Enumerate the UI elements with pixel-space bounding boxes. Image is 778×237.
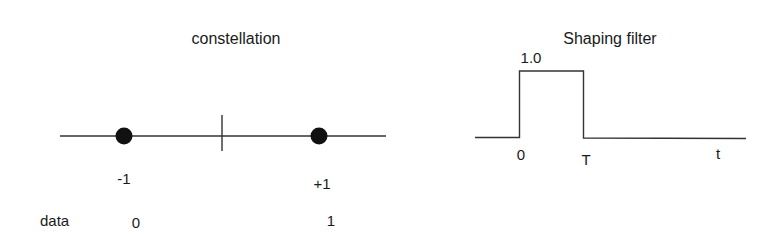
- constellation-point-positive: [311, 128, 328, 145]
- shaping-filter-title: Shaping filter: [563, 30, 657, 47]
- symbol-label-positive: +1: [313, 175, 330, 192]
- symbol-label-negative: -1: [117, 170, 130, 187]
- constellation-point-negative: [116, 128, 133, 145]
- shaping-filter-panel: Shaping filter 1.0 0 T t: [475, 30, 746, 168]
- pulse-end-label: T: [581, 151, 590, 168]
- data-value-0: 0: [132, 214, 140, 231]
- rect-pulse-waveform: [475, 71, 746, 139]
- data-row-label: data: [40, 212, 70, 229]
- amplitude-label: 1.0: [521, 49, 542, 66]
- time-axis-label: t: [716, 145, 721, 162]
- diagram-canvas: constellation -1 +1 data 0 1 Shaping fil…: [0, 0, 778, 237]
- data-value-1: 1: [327, 212, 335, 229]
- constellation-title: constellation: [192, 30, 281, 47]
- constellation-panel: constellation -1 +1 data 0 1: [40, 30, 386, 231]
- pulse-start-label: 0: [517, 146, 525, 163]
